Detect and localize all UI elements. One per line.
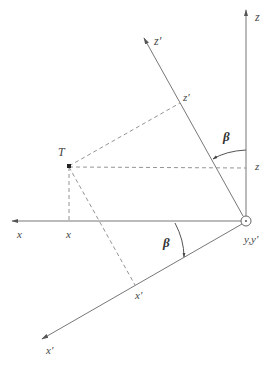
- beta-arc-lower: [175, 223, 184, 257]
- x-prime-projection-label: x′: [135, 290, 142, 301]
- z-prime-axis: [144, 38, 243, 216]
- beta-label-lower: β: [163, 236, 170, 249]
- projection-z: [69, 167, 246, 168]
- rotation-diagram: z z′ z′ β z T x x β y,y′ x′ x′: [0, 0, 280, 366]
- point-t: [67, 164, 71, 168]
- z-axis-label: z: [255, 11, 260, 23]
- projection-x-prime: [69, 167, 135, 285]
- x-axis-label: x: [17, 229, 22, 240]
- projection-z-prime: [69, 103, 180, 166]
- x-prime-axis: [42, 224, 242, 339]
- z-prime-projection-label: z′: [183, 92, 190, 103]
- z-projection-label: z: [255, 161, 259, 172]
- origin-label: y,y′: [244, 234, 258, 245]
- beta-arc-upper: [213, 150, 246, 159]
- point-t-label: T: [58, 146, 65, 158]
- beta-label-upper: β: [223, 130, 230, 143]
- z-prime-axis-label: z′: [154, 35, 161, 47]
- diagram-graphics: [0, 0, 280, 366]
- x-prime-axis-label: x′: [46, 345, 53, 356]
- x-projection-label: x: [66, 229, 71, 240]
